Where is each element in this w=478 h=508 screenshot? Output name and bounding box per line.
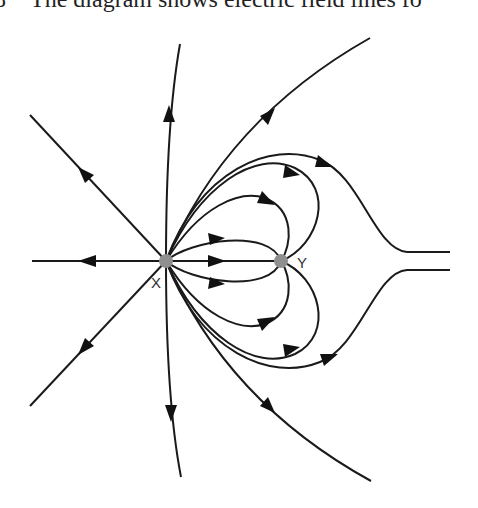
charge-x [159, 254, 173, 268]
radial-field-lines [30, 38, 371, 481]
label-x: X [151, 274, 161, 291]
connecting-field-lines [166, 163, 319, 358]
charge-y [274, 254, 288, 268]
field-line-diagram: X Y [0, 0, 478, 508]
label-y: Y [297, 254, 307, 271]
